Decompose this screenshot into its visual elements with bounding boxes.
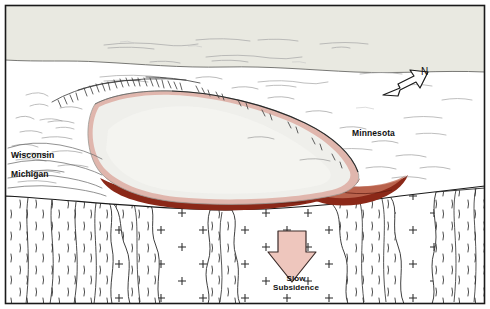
label-minnesota: Minnesota xyxy=(352,129,395,139)
geologic-block-diagram: Wisconsin Michigan Minnesota N Slow Subs… xyxy=(0,0,490,309)
metamorphic-basement-center xyxy=(206,210,240,304)
metamorphic-basement-left xyxy=(5,196,113,304)
metamorphic-basement-right xyxy=(432,188,485,304)
label-slow-subsidence: Slow Subsidence xyxy=(244,275,348,293)
diagram-canvas xyxy=(0,0,490,309)
scene-contents xyxy=(0,0,490,309)
label-north: N xyxy=(421,66,428,77)
label-wisconsin: Wisconsin xyxy=(11,151,54,161)
label-michigan: Michigan xyxy=(11,170,49,180)
